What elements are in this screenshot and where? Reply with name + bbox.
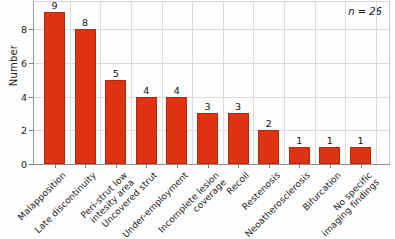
bar-value-label: 9 [40, 0, 70, 11]
y-tick-mark [29, 97, 33, 98]
bar-value-label: 5 [101, 68, 131, 79]
x-tick-mark [146, 164, 147, 168]
bar [105, 80, 126, 164]
gridline-vertical [376, 2, 377, 164]
x-tick-mark [299, 164, 300, 168]
x-tick-mark [208, 164, 209, 168]
x-tick-mark [238, 164, 239, 168]
bar [289, 147, 310, 164]
bar [350, 147, 371, 164]
y-tick-mark [29, 63, 33, 64]
x-tick-mark [269, 164, 270, 168]
y-tick-label: 0 [14, 159, 27, 170]
plot-frame-right [389, 1, 390, 165]
bar-value-label: 1 [346, 135, 376, 146]
bar [166, 97, 187, 165]
y-tick-mark [29, 29, 33, 30]
y-tick-label: 4 [14, 91, 27, 102]
plot-frame-top [33, 1, 390, 2]
bar-value-label: 2 [254, 118, 284, 129]
x-axis-line [33, 164, 390, 165]
y-tick-label: 2 [14, 125, 27, 136]
x-tick-mark [116, 164, 117, 168]
x-tick-mark [330, 164, 331, 168]
gridline-vertical [131, 2, 132, 164]
plot-area: 98544332111 [33, 1, 390, 165]
bar-value-label: 1 [315, 135, 345, 146]
bar-value-label: 3 [223, 101, 253, 112]
gridline-vertical [162, 2, 163, 164]
gridline-vertical [192, 2, 193, 164]
gridline-vertical [100, 2, 101, 164]
gridline-vertical [223, 2, 224, 164]
bar-value-label: 4 [131, 85, 161, 96]
y-tick-label: 8 [14, 24, 27, 35]
bar [197, 113, 218, 164]
y-axis-line [33, 1, 34, 165]
bar-value-label: 4 [162, 85, 192, 96]
x-tick-mark [177, 164, 178, 168]
x-tick-mark [85, 164, 86, 168]
y-tick-mark [29, 130, 33, 131]
bar-value-label: 8 [70, 17, 100, 28]
bar [75, 29, 96, 164]
bar [228, 113, 249, 164]
gridline-vertical [253, 2, 254, 164]
bar-chart-figure: Number n = 26 98544332111 02468 Malappos… [0, 0, 395, 239]
bar [319, 147, 340, 164]
y-tick-label: 6 [14, 57, 27, 68]
bar-value-label: 3 [193, 101, 223, 112]
bar [44, 12, 65, 164]
x-tick-mark [55, 164, 56, 168]
bar [258, 130, 279, 164]
bar-value-label: 1 [284, 135, 314, 146]
x-tick-mark [361, 164, 362, 168]
y-tick-mark [29, 164, 33, 165]
bar [136, 97, 157, 165]
